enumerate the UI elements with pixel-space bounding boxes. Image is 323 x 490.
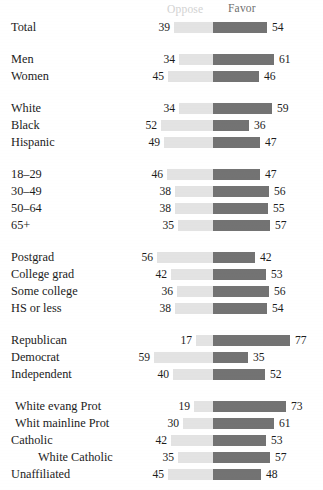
value-oppose: 59 (120, 351, 150, 364)
row-bars: 4548 (0, 469, 323, 480)
bar-favor (213, 335, 290, 346)
bar-favor (213, 286, 269, 297)
diverging-bar-chart: Oppose Favor Total3954Men3461Women4546Wh… (0, 0, 323, 490)
legend-label-favor: Favor (228, 1, 256, 15)
bar-favor (213, 452, 270, 463)
bar-favor (213, 137, 260, 148)
bar-favor (213, 22, 267, 33)
chart-row: White3459 (0, 100, 323, 117)
value-oppose: 38 (141, 202, 171, 215)
value-oppose: 42 (137, 434, 167, 447)
chart-row: White evang Prot1973 (0, 398, 323, 415)
value-oppose: 36 (143, 285, 173, 298)
chart-row: Women4546 (0, 68, 323, 85)
value-oppose: 46 (133, 168, 163, 181)
row-bars: 4947 (0, 137, 323, 148)
row-bars: 3856 (0, 186, 323, 197)
value-favor: 54 (272, 21, 302, 34)
chart-row: 65+3557 (0, 217, 323, 234)
value-favor: 53 (271, 268, 301, 281)
bar-favor (213, 418, 274, 429)
bar-oppose (175, 203, 213, 214)
value-favor: 55 (273, 202, 303, 215)
chart-row: Catholic4253 (0, 432, 323, 449)
value-oppose: 38 (141, 302, 171, 315)
chart-row: Postgrad5642 (0, 249, 323, 266)
value-favor: 46 (264, 70, 294, 83)
bar-oppose (178, 220, 213, 231)
value-favor: 61 (279, 417, 309, 430)
row-bars: 3461 (0, 54, 323, 65)
value-favor: 77 (295, 334, 323, 347)
bar-favor (213, 401, 286, 412)
bar-favor (213, 352, 248, 363)
chart-row: Men3461 (0, 51, 323, 68)
row-bars: 4546 (0, 71, 323, 82)
bar-oppose (183, 418, 213, 429)
bar-oppose (175, 186, 213, 197)
value-oppose: 17 (162, 334, 192, 347)
value-favor: 56 (274, 285, 304, 298)
row-bars: 5236 (0, 120, 323, 131)
row-bars: 4647 (0, 169, 323, 180)
value-favor: 57 (275, 219, 305, 232)
chart-row: Total3954 (0, 19, 323, 36)
bar-oppose (157, 252, 213, 263)
row-bars: 4253 (0, 269, 323, 280)
value-favor: 36 (254, 119, 284, 132)
value-oppose: 39 (140, 21, 170, 34)
bar-oppose (168, 71, 213, 82)
bar-favor (213, 203, 268, 214)
bar-favor (213, 435, 266, 446)
bar-oppose (168, 469, 213, 480)
value-oppose: 45 (134, 468, 164, 481)
value-favor: 52 (270, 368, 300, 381)
bar-favor (213, 220, 270, 231)
bar-favor (213, 303, 267, 314)
value-favor: 73 (291, 400, 321, 413)
bar-oppose (179, 54, 213, 65)
row-bars: 3855 (0, 203, 323, 214)
value-oppose: 45 (134, 70, 164, 83)
value-oppose: 19 (160, 400, 190, 413)
value-favor: 42 (260, 251, 290, 264)
bar-favor (213, 103, 272, 114)
chart-row: Independent4052 (0, 366, 323, 383)
row-bars: 5935 (0, 352, 323, 363)
bar-oppose (154, 352, 213, 363)
value-favor: 47 (265, 168, 295, 181)
chart-row: Democrat5935 (0, 349, 323, 366)
chart-row: 30–493856 (0, 183, 323, 200)
value-oppose: 35 (144, 451, 174, 464)
chart-row: White Catholic3557 (0, 449, 323, 466)
row-bars: 5642 (0, 252, 323, 263)
bar-oppose (177, 286, 213, 297)
row-bars: 3656 (0, 286, 323, 297)
value-oppose: 34 (145, 102, 175, 115)
row-bars: 3954 (0, 22, 323, 33)
bar-oppose (167, 169, 213, 180)
bar-favor (213, 71, 259, 82)
bar-oppose (179, 103, 213, 114)
value-favor: 59 (277, 102, 307, 115)
bar-favor (213, 269, 266, 280)
row-bars: 3854 (0, 303, 323, 314)
chart-legend: Oppose Favor (0, 0, 323, 18)
value-favor: 61 (279, 53, 309, 66)
bar-favor (213, 252, 255, 263)
row-bars: 4253 (0, 435, 323, 446)
chart-row: Black5236 (0, 117, 323, 134)
bar-oppose (161, 120, 213, 131)
chart-row: Whit mainline Prot3061 (0, 415, 323, 432)
value-favor: 54 (272, 302, 302, 315)
value-favor: 56 (274, 185, 304, 198)
value-oppose: 40 (139, 368, 169, 381)
value-oppose: 35 (144, 219, 174, 232)
bar-oppose (171, 435, 213, 446)
value-oppose: 52 (127, 119, 157, 132)
value-favor: 47 (265, 136, 295, 149)
row-bars: 4052 (0, 369, 323, 380)
value-oppose: 49 (130, 136, 160, 149)
chart-row: Republican1777 (0, 332, 323, 349)
value-oppose: 30 (149, 417, 179, 430)
